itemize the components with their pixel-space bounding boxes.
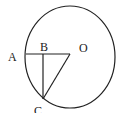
label-b: B — [40, 40, 48, 54]
label-a: A — [8, 50, 17, 64]
label-c: C — [34, 104, 42, 113]
segment-oc — [43, 54, 70, 99]
geometry-diagram: A B O C — [0, 0, 119, 113]
label-o: O — [79, 41, 88, 55]
circle — [25, 6, 115, 108]
